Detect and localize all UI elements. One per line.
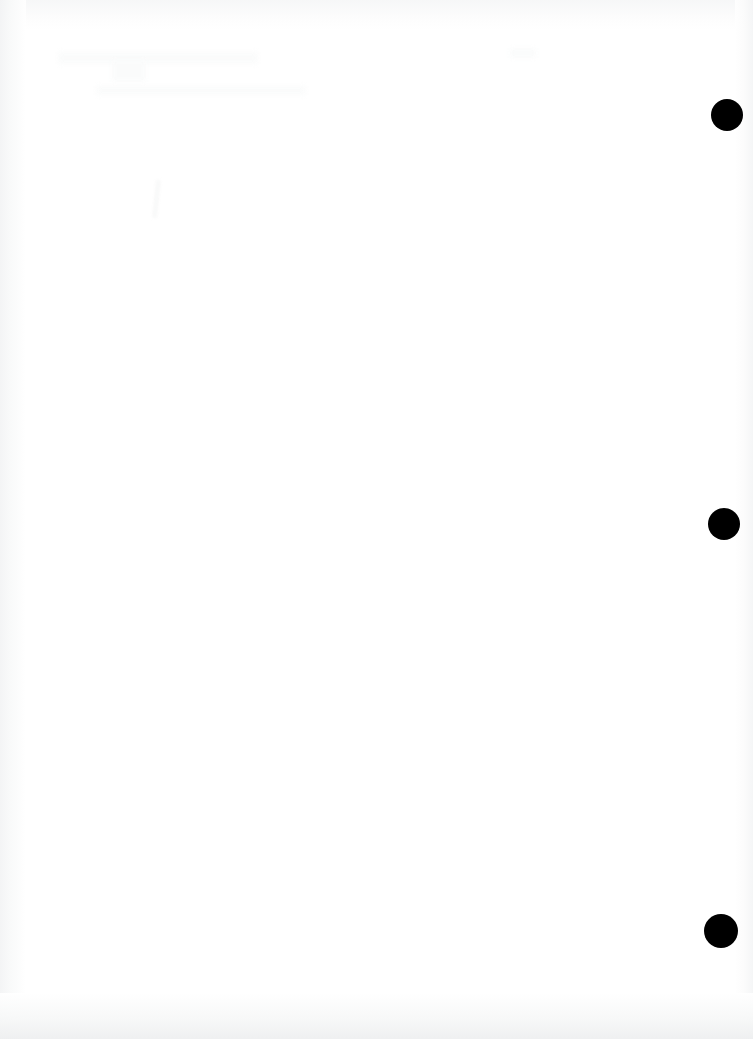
page-body-text — [60, 140, 620, 880]
ghost-smudge-upper-band — [96, 86, 306, 95]
scanned-page — [0, 0, 753, 1039]
scan-edge-shadow-bottom — [0, 993, 753, 1039]
registration-mark-top — [711, 99, 743, 131]
registration-mark-middle — [708, 508, 740, 540]
ghost-smudge-upper-right — [510, 48, 536, 58]
scan-edge-shadow-left — [0, 0, 26, 1039]
registration-mark-bottom — [704, 914, 738, 948]
ghost-smudge-upper-left — [58, 52, 258, 64]
scan-edge-shadow-top — [0, 0, 753, 30]
ghost-smudge-blob — [112, 60, 146, 82]
